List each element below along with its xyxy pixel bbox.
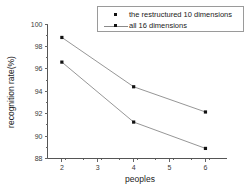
- y-tick-label: 98: [35, 43, 43, 50]
- data-point: [60, 61, 63, 64]
- series-group: [60, 36, 207, 150]
- legend-entry-0: the restructured 10 dimensions: [98, 9, 243, 20]
- series-0: [60, 36, 207, 114]
- chart-figure: 889092949698100 23456 peoples recognitio…: [0, 0, 250, 188]
- y-tick-label: 88: [35, 155, 43, 162]
- y-tick-label: 90: [35, 133, 43, 140]
- series-line: [62, 37, 206, 112]
- y-tick-label: 100: [31, 21, 43, 28]
- chart-legend: the restructured 10 dimensions all 16 di…: [97, 6, 244, 32]
- data-point: [132, 120, 135, 123]
- x-tick-label: 4: [132, 164, 136, 171]
- x-tick-label: 5: [168, 164, 172, 171]
- data-point: [60, 36, 63, 39]
- data-point: [132, 85, 135, 88]
- x-tick-label: 2: [60, 164, 64, 171]
- legend-entry-1: all 16 dimensions: [98, 20, 243, 31]
- data-point: [204, 110, 207, 113]
- x-tick-group: 23456: [60, 159, 209, 171]
- x-axis-title: peoples: [125, 174, 155, 184]
- y-tick-label: 92: [35, 110, 43, 117]
- x-tick-label: 6: [204, 164, 208, 171]
- y-axis-title: recognition rate(%): [6, 56, 16, 128]
- legend-label-0: the restructured 10 dimensions: [129, 9, 232, 20]
- y-tick-group: 889092949698100: [31, 21, 48, 163]
- y-tick-label: 96: [35, 65, 43, 72]
- legend-label-1: all 16 dimensions: [129, 20, 187, 31]
- x-tick-label: 3: [96, 164, 100, 171]
- y-tick-label: 94: [35, 88, 43, 95]
- series-line: [62, 62, 206, 148]
- legend-marker-icon-1: [103, 21, 129, 31]
- legend-marker-icon-0: [103, 10, 129, 20]
- data-point: [204, 147, 207, 150]
